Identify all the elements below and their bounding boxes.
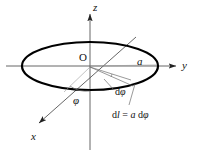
arc-length-label: dl = a dφ xyxy=(112,110,148,120)
dphi-phi-glyph: φ xyxy=(120,86,126,97)
diagram-canvas xyxy=(0,0,197,157)
dl-leader xyxy=(129,84,135,105)
physics-diagram-circular-loop: z y x O a φ dφ dl = a dφ xyxy=(0,0,197,157)
origin-label: O xyxy=(79,52,87,63)
dl-equals-glyph: = xyxy=(120,109,131,120)
phi-reference-line xyxy=(64,67,90,92)
radius-label: a xyxy=(137,56,143,67)
dl-d2-glyph: d xyxy=(135,109,143,120)
delta-angle-label: dφ xyxy=(115,87,126,97)
dl-phi2-glyph: φ xyxy=(143,109,149,120)
x-axis-label: x xyxy=(31,131,36,142)
angle-phi-label: φ xyxy=(73,95,79,106)
z-axis-label: z xyxy=(93,2,97,13)
y-axis-label: y xyxy=(182,60,187,71)
wedge-edge-upper xyxy=(90,67,131,80)
